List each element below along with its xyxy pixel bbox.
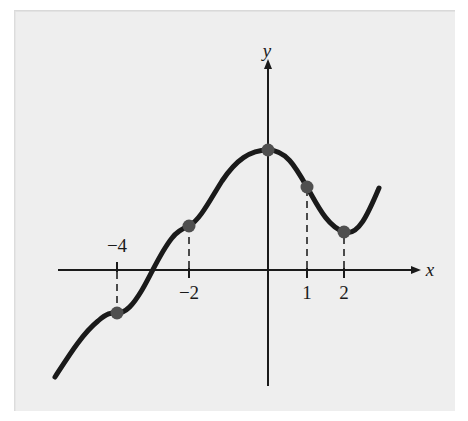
x-tick-label-minus-2: −2 xyxy=(179,282,199,303)
y-axis-label: y xyxy=(261,40,272,61)
point-at-x-0 xyxy=(262,144,275,157)
point-at-x-1 xyxy=(301,181,314,194)
point-at-x-2 xyxy=(338,226,351,239)
x-tick-label-minus-4: −4 xyxy=(107,235,128,256)
function-curve xyxy=(55,150,379,377)
figure-frame: −4 −2 1 2 x y xyxy=(0,0,468,421)
x-tick-label-2: 2 xyxy=(339,282,349,303)
graph-canvas: −4 −2 1 2 x y xyxy=(0,0,468,421)
x-axis-label: x xyxy=(425,259,435,280)
x-tick-label-1: 1 xyxy=(302,282,312,303)
point-at-x-minus-4 xyxy=(111,307,124,320)
point-at-x-minus-2 xyxy=(183,220,196,233)
